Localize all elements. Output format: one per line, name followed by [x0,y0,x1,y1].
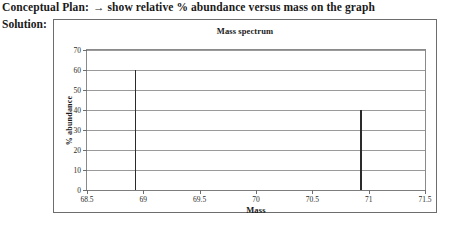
x-tick-mark [200,190,201,194]
solution-box: Mass spectrum % abundance 01020304050607… [53,19,437,213]
x-tick-label: 68.5 [80,195,93,204]
x-tick-mark [143,190,144,194]
y-axis-title-label: % abundance [66,95,75,145]
x-tick-label: 70 [252,195,260,204]
y-tick-label: 60 [74,66,82,75]
x-tick-mark [425,190,426,194]
peak-line [360,110,362,190]
plot-area: 01020304050607068.56969.57070.57171.5 [86,49,426,191]
x-axis-title: Mass [86,205,426,215]
conceptual-plan-label: Conceptual Plan: [2,1,89,13]
x-tick-label: 71.5 [418,195,431,204]
y-tick-label: 70 [74,46,82,55]
chart-title: Mass spectrum [54,26,436,36]
conceptual-plan-line: Conceptual Plan:→show relative % abundan… [2,1,375,13]
x-tick-mark [87,190,88,194]
y-tick-label: 50 [74,86,82,95]
y-tick-label: 40 [74,106,82,115]
x-tick-mark [312,190,313,194]
x-tick-label: 69.5 [193,195,206,204]
x-tick-label: 71 [365,195,373,204]
x-tick-label: 69 [140,195,148,204]
conceptual-plan-text: show relative % abundance versus mass on… [108,1,375,13]
solution-label: Solution: [2,18,47,30]
arrow-icon: → [89,1,108,13]
y-tick-label: 0 [77,186,81,195]
y-tick-label: 30 [74,126,82,135]
x-tick-mark [369,190,370,194]
peak-series [87,50,425,190]
peak-line [135,70,137,190]
y-tick-label: 10 [74,166,82,175]
y-tick-label: 20 [74,146,82,155]
x-tick-label: 70.5 [306,195,319,204]
x-tick-mark [256,190,257,194]
